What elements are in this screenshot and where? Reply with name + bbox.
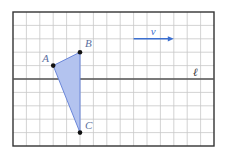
- vector-v-label: v: [151, 25, 156, 37]
- vertex-c: [78, 130, 83, 135]
- translation-diagram: ℓ ABC v: [0, 0, 225, 155]
- vertex-a: [51, 63, 56, 68]
- arrowhead-icon: [168, 36, 174, 41]
- vector-v: v: [134, 25, 174, 42]
- vertex-label-b: B: [85, 37, 92, 49]
- line-l-label: ℓ: [193, 66, 198, 78]
- vertex-b: [78, 50, 83, 55]
- vertex-label-a: A: [41, 52, 49, 64]
- vertex-label-c: C: [85, 119, 93, 131]
